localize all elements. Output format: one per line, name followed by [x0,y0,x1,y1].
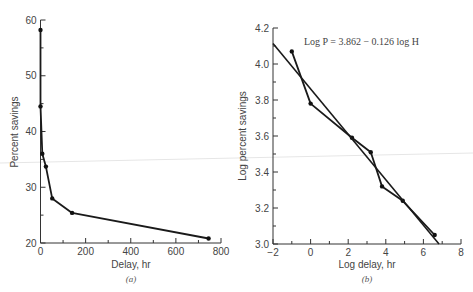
chart-a-data-series [38,28,210,241]
data-point-marker [369,150,373,154]
data-point-marker [380,184,384,188]
data-point-marker [38,28,42,32]
x-tick-label: 8 [458,247,464,258]
data-point-marker [40,152,44,156]
data-line [41,30,209,239]
y-tick-label: 3.2 [255,203,269,214]
chart-a-percent-savings: 2030405060 0200400600800 Delay, hr Perce… [9,15,230,285]
chart-b-data-series [273,44,439,245]
x-tick-label: 6 [421,247,427,258]
chart-b-x-axis-title: Log delay, hr [338,259,396,270]
chart-a-y-tick-labels: 2030405060 [25,15,37,249]
y-tick-label: 50 [25,70,37,81]
chart-b-x-tick-labels: −202468 [267,247,464,258]
x-tick-label: 4 [383,247,389,258]
chart-a-caption: (a) [126,274,137,284]
data-point-marker [206,236,210,240]
x-tick-label: 200 [77,246,94,257]
data-point-marker [290,49,294,53]
x-tick-label: 800 [213,246,230,257]
chart-a-x-axis-title: Delay, hr [111,259,151,270]
chart-b-regression-equation: Log P = 3.862 − 0.126 log H [304,36,419,47]
chart-b-y-axis-title: Log percent savings [237,91,248,181]
data-line [292,51,435,235]
y-tick-label: 3.8 [255,95,269,106]
x-tick-label: 0 [308,247,314,258]
x-tick-label: 0 [38,246,44,257]
figure: 2030405060 0200400600800 Delay, hr Perce… [0,0,473,292]
x-tick-label: −2 [267,247,279,258]
axis-lines [273,28,461,244]
y-tick-label: 20 [25,238,37,249]
y-tick-label: 4.2 [255,23,269,34]
x-tick-label: 2 [345,247,351,258]
data-point-marker [308,101,312,105]
data-point-marker [44,164,48,168]
chart-a-y-axis-title: Percent savings [9,96,20,167]
y-tick-label: 30 [25,182,37,193]
data-point-marker [50,196,54,200]
chart-a-x-tick-labels: 0200400600800 [38,246,230,257]
y-tick-label: 3.4 [255,167,269,178]
y-tick-label: 40 [25,126,37,137]
chart-b-caption: (b) [362,274,373,284]
x-tick-label: 600 [168,246,185,257]
chart-b-log-percent-savings: 3.03.23.43.63.84.04.2 −202468 Log P = 3.… [237,23,464,285]
regression-line [273,44,439,245]
y-tick-label: 60 [25,15,37,26]
chart-b-axes [273,28,461,244]
data-point-marker [38,104,42,108]
x-tick-label: 400 [122,246,139,257]
y-tick-label: 3.6 [255,131,269,142]
y-tick-label: 4.0 [255,59,269,70]
chart-b-y-tick-labels: 3.03.23.43.63.84.04.2 [255,23,269,250]
data-point-marker [70,211,74,215]
